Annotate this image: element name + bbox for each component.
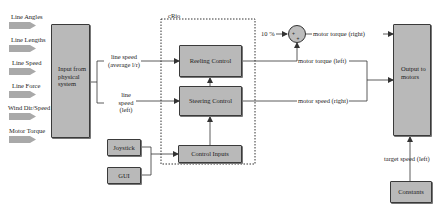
- input-physical-system-block[interactable]: Input from physical system: [51, 24, 90, 138]
- input-arrow-icon: [9, 45, 36, 52]
- summing-input-10-percent: 10 %: [261, 30, 275, 38]
- input-label-line-angles: Line Angles: [11, 13, 43, 21]
- svg-text:+: +: [297, 35, 300, 41]
- input-label-line-speed: Line Speed: [12, 59, 41, 67]
- signal-motor-torque-left: motor torque (left): [298, 57, 346, 65]
- input-label-line-lengths: Line Lengths: [11, 36, 45, 44]
- constants-block[interactable]: Constants: [390, 181, 432, 203]
- input-label-line-force: Line Force: [12, 82, 40, 90]
- reeling-control-block[interactable]: Reeling Control: [179, 45, 242, 77]
- signal-motor-speed-right: motor speed (right): [298, 97, 348, 105]
- svg-text:+: +: [292, 30, 295, 36]
- output-to-motors-block[interactable]: Output to motors: [393, 24, 431, 136]
- signal-line-speed-average: line speed (average l/r): [106, 53, 142, 68]
- joystick-block[interactable]: Joystick: [107, 139, 141, 156]
- input-label-motor-torque: Motor Torque: [9, 127, 45, 135]
- signal-line-speed-left: line speed (left): [115, 91, 137, 114]
- control-inputs-block[interactable]: Control Inputs: [178, 145, 242, 163]
- crio-label: cRio: [168, 12, 180, 20]
- diagram-canvas: + + Line Angles Line Lengths Line Speed …: [0, 0, 443, 214]
- signal-target-speed-left: target speed (left): [384, 155, 430, 163]
- input-arrow-icon: [9, 113, 36, 120]
- input-arrow-icon: [9, 68, 36, 75]
- gui-block[interactable]: GUI: [107, 167, 141, 184]
- input-arrow-icon: [9, 136, 36, 143]
- signal-motor-torque-right: motor torque (right): [313, 30, 365, 38]
- steering-control-block[interactable]: Steering Control: [179, 86, 242, 116]
- input-arrow-icon: [9, 22, 36, 29]
- input-arrow-icon: [9, 91, 36, 98]
- input-label-wind-dir-speed: Wind Dir/Speed: [8, 104, 50, 112]
